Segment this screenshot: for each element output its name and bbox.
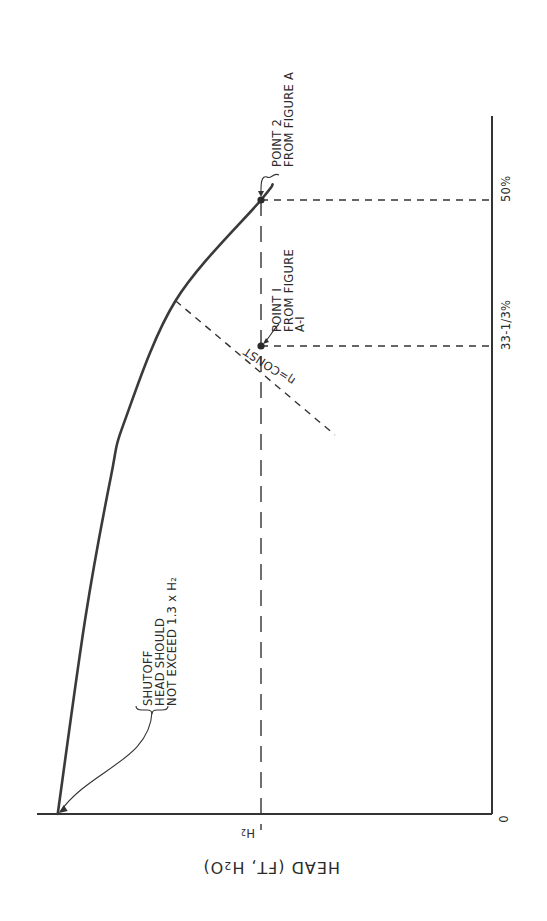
h2-sub: 2 bbox=[241, 827, 246, 836]
pump-head-curve-chart: 0 33-1/3% 50% H2 HEAD (FT, H2O) POINT 2 … bbox=[0, 0, 547, 921]
head-tick-label-h2: H2 bbox=[241, 826, 255, 840]
head-axis-title: HEAD (FT, H2O) bbox=[203, 858, 340, 877]
flow-tick-label-50: 50% bbox=[499, 176, 513, 202]
shutoff-leader-arrow bbox=[61, 712, 152, 811]
head-title-tail: O) bbox=[203, 858, 224, 877]
head-title-main: HEAD (FT, H bbox=[231, 858, 340, 877]
point-1-label: POINT I FROM FIGURE A-I bbox=[270, 245, 307, 332]
flow-tick-labels: 0 33-1/3% 50% bbox=[497, 176, 513, 823]
flow-tick-label-33: 33-1/3% bbox=[499, 300, 513, 350]
point-1-label-line: A-I bbox=[293, 316, 307, 332]
point-2-label: POINT 2 FROM FIGURE A bbox=[270, 72, 296, 167]
point-2-marker bbox=[257, 196, 264, 203]
efficiency-constant-line bbox=[176, 301, 335, 435]
shutoff-brace bbox=[136, 706, 168, 714]
h2-main: H bbox=[246, 826, 255, 840]
shutoff-note: SHUTOFF HEAD SHOULD NOT EXCEED 1.3 x H₂ bbox=[141, 577, 179, 706]
head-curve-series bbox=[58, 184, 273, 814]
shutoff-note-line: NOT EXCEED 1.3 x H₂ bbox=[165, 577, 179, 706]
point-2-label-line: FROM FIGURE A bbox=[282, 72, 296, 167]
efficiency-label: η=CONST bbox=[240, 344, 298, 388]
flow-tick-label-0: 0 bbox=[497, 815, 511, 823]
head-title-sub: 2 bbox=[223, 859, 231, 872]
